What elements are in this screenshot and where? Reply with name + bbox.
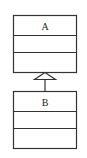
class-b-name: B (42, 97, 49, 108)
hollow-triangle-icon (35, 73, 56, 80)
class-box-a[interactable]: A (14, 16, 77, 73)
uml-diagram: A B (0, 0, 87, 158)
class-a-name: A (41, 21, 49, 32)
generalization-arrow (35, 73, 56, 92)
class-box-b[interactable]: B (14, 92, 77, 149)
